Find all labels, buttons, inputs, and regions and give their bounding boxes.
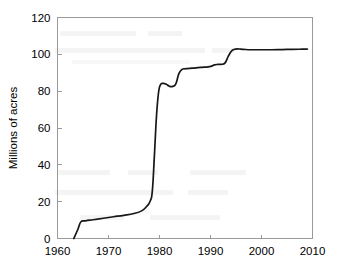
line-chart: 020406080100120 196019701980199020002010… bbox=[0, 0, 341, 271]
y-tick-label: 120 bbox=[31, 12, 50, 24]
y-tick-label: 0 bbox=[44, 233, 50, 245]
y-axis-tick-labels: 020406080100120 bbox=[31, 12, 50, 245]
y-tick-label: 60 bbox=[38, 122, 51, 134]
x-axis-ticks bbox=[58, 235, 313, 239]
chart-figure: 020406080100120 196019701980199020002010… bbox=[0, 0, 341, 271]
y-tick-label: 20 bbox=[38, 196, 51, 208]
y-tick-label: 100 bbox=[31, 48, 50, 60]
y-tick-label: 80 bbox=[38, 85, 51, 97]
y-axis-ticks bbox=[58, 18, 62, 239]
y-axis-title: Millions of acres bbox=[7, 87, 19, 170]
x-axis-tick-labels: 196019701980199020002010 bbox=[45, 245, 326, 257]
x-tick-label: 1980 bbox=[147, 245, 173, 257]
x-tick-label: 2000 bbox=[249, 245, 275, 257]
x-tick-label: 1990 bbox=[198, 245, 224, 257]
x-tick-label: 1960 bbox=[45, 245, 71, 257]
plot-frame bbox=[58, 18, 313, 239]
data-series-line bbox=[74, 49, 308, 239]
x-tick-label: 1970 bbox=[96, 245, 122, 257]
x-tick-label: 2010 bbox=[300, 245, 326, 257]
y-tick-label: 40 bbox=[38, 159, 51, 171]
